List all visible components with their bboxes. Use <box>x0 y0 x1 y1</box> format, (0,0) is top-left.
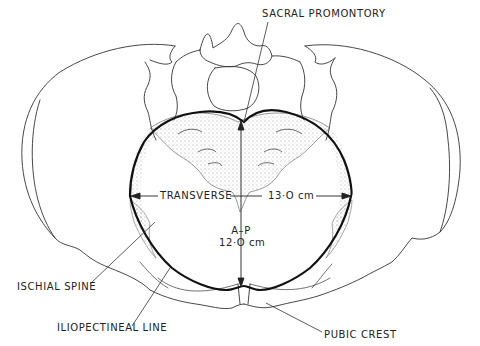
sacrum-vertebra <box>200 24 272 67</box>
label-ap-title: A–P <box>226 226 256 236</box>
pelvis-drawing <box>0 0 480 346</box>
label-transverse-value: 13·O cm <box>268 191 314 201</box>
sacral-promontory-leader <box>244 22 268 122</box>
iliopectineal-leader <box>132 268 170 326</box>
pubic-crest-leader <box>266 303 322 332</box>
label-pubic-crest: PUBIC CREST <box>324 330 397 340</box>
label-iliopectineal-line: ILIOPECTINEAL LINE <box>57 323 167 333</box>
label-ap-value: 12·O cm <box>219 238 265 248</box>
pelvis-diagram: SACRAL PROMONTORY TRANSVERSE 13·O cm A–P… <box>0 0 480 346</box>
label-transverse: TRANSVERSE <box>160 191 232 201</box>
label-ischial-spine: ISCHIAL SPINE <box>17 282 96 292</box>
right-ilium <box>305 45 460 278</box>
ischial-spine-leader <box>90 222 155 284</box>
label-sacral-promontory: SACRAL PROMONTORY <box>262 9 386 19</box>
sacral-body <box>207 66 258 110</box>
